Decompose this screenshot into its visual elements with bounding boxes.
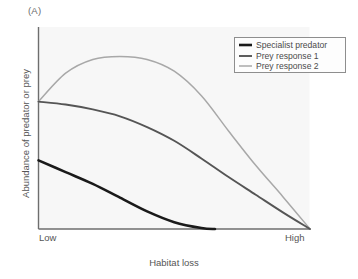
chart-legend: Specialist predator Prey response 1 Prey… xyxy=(234,37,346,73)
x-tick-label-high: High xyxy=(285,232,305,243)
legend-label-specialist-predator: Specialist predator xyxy=(256,40,327,51)
legend-line-swatch-0 xyxy=(239,40,252,50)
legend-line-swatch-1 xyxy=(239,51,252,61)
x-axis-title: Habitat loss xyxy=(38,257,310,268)
legend-item-prey-response-1: Prey response 1 xyxy=(239,51,345,62)
legend-label-prey-response-2: Prey response 2 xyxy=(256,61,319,72)
x-tick-label-low: Low xyxy=(39,232,56,243)
legend-item-prey-response-2: Prey response 2 xyxy=(239,61,345,72)
legend-line-swatch-2 xyxy=(239,61,252,71)
legend-label-prey-response-1: Prey response 1 xyxy=(256,51,319,62)
figure-panel-a: (A) Abundance of predator or prey Low Hi… xyxy=(0,0,358,279)
y-axis-title: Abundance of predator or prey xyxy=(20,34,31,234)
legend-item-specialist-predator: Specialist predator xyxy=(239,40,345,51)
